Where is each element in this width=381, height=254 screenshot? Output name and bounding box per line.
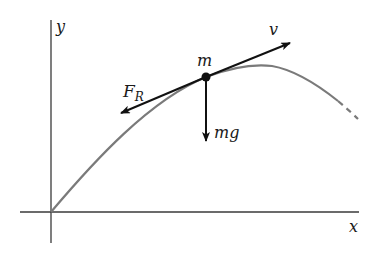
axes xyxy=(20,20,359,243)
drag-force-label: FR xyxy=(122,81,144,104)
trajectory-dashed-continuation xyxy=(338,101,358,119)
y-axis-label: y xyxy=(55,17,66,36)
velocity-label: v xyxy=(269,20,278,39)
projectile-diagram: y x v FR mg m xyxy=(0,0,381,254)
x-axis-label: x xyxy=(349,217,358,236)
velocity-vector-arrow xyxy=(206,43,290,77)
trajectory-path xyxy=(51,65,338,212)
mass-point xyxy=(202,73,211,82)
drag-force-label-subscript: R xyxy=(134,90,144,104)
mass-label: m xyxy=(197,51,212,70)
gravity-label: mg xyxy=(214,123,239,142)
